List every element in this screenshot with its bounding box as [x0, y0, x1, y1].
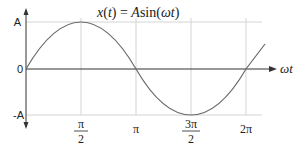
x-axis-label: ωt [280, 61, 293, 76]
tick-label-3pi-over-2: 3π 2 [182, 117, 200, 146]
tick-label-pi-over-2: π 2 [74, 117, 88, 146]
tick-label-2pi: 2π [240, 122, 252, 136]
arrow-up-icon [24, 8, 29, 15]
grid-lines [26, 18, 262, 115]
y-label-A: A [14, 16, 22, 28]
svg-text:π: π [78, 117, 84, 131]
svg-text:3π: 3π [185, 117, 197, 131]
svg-text:2: 2 [188, 132, 194, 146]
y-label-minus-A: -A [13, 109, 25, 121]
y-label-zero: 0 [17, 63, 23, 75]
sine-diagram: A 0 -A ωt x(t) = Asin(ωt) π 2 π 3π 2 2π [0, 0, 298, 152]
x-axis [26, 66, 277, 72]
arrow-right-icon [269, 66, 277, 72]
svg-text:2: 2 [78, 132, 84, 146]
formula-title: x(t) = Asin(ωt) [96, 5, 180, 21]
svg-text:2π: 2π [240, 122, 252, 136]
svg-text:π: π [133, 122, 139, 136]
tick-label-pi: π [133, 122, 139, 136]
arrow-down-icon [24, 122, 29, 129]
